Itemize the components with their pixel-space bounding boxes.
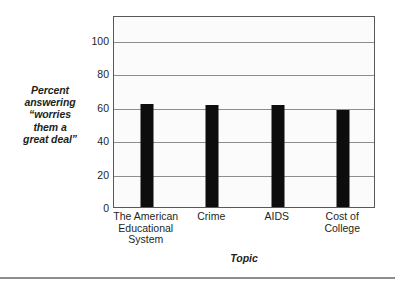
y-tick-label-40: 40 [78, 136, 109, 147]
bar [140, 104, 153, 208]
gridline-80 [114, 75, 374, 76]
y-tick-label-20: 20 [78, 169, 109, 180]
x-tick-label-3-line-1: College [298, 223, 386, 235]
plot-inner [114, 17, 374, 207]
gridline-100 [114, 42, 374, 43]
y-axis-title-line-1: answering [14, 96, 86, 108]
bar-chart-figure: Percentanswering“worriesthem agreat deal… [0, 0, 395, 285]
x-axis-title: Topic [113, 252, 375, 264]
y-axis-title-line-4: great deal” [14, 133, 86, 145]
y-axis-tick-labels: 020406080100 [78, 16, 109, 208]
y-tick-label-60: 60 [78, 103, 109, 114]
bar [206, 105, 219, 207]
y-tick-label-80: 80 [78, 69, 109, 80]
y-axis-title-line-2: “worries [14, 108, 86, 120]
bottom-divider [0, 277, 395, 279]
x-tick-label-0-line-2: System [102, 234, 190, 246]
y-axis-title-line-0: Percent [14, 84, 86, 96]
x-tick-label-3: Cost ofCollege [298, 211, 386, 234]
x-axis-tick-labels: The AmericanEducationalSystemCrimeAIDSCo… [113, 211, 375, 253]
x-tick-label-3-line-0: Cost of [298, 211, 386, 223]
y-axis-title: Percentanswering“worriesthem agreat deal… [14, 84, 86, 145]
bar [271, 105, 284, 207]
plot-area [113, 16, 375, 208]
y-tick-label-100: 100 [78, 36, 109, 47]
bar [337, 110, 350, 207]
y-axis-title-line-3: them a [14, 121, 86, 133]
